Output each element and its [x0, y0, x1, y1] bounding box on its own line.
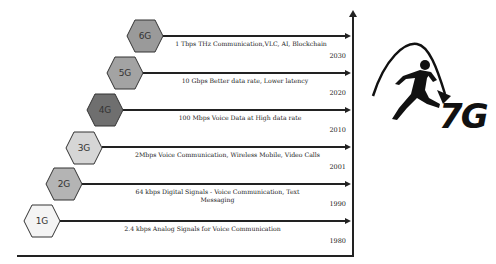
generation-description: 100 Mbps Voice Data at High data rate [140, 114, 340, 122]
arrow-right-icon [345, 218, 351, 224]
generation-description: 2Mbps Voice Communication, Wireless Mobi… [110, 151, 345, 159]
arrow-right-icon [345, 33, 351, 39]
generation-label: 6G [126, 19, 164, 53]
generation-label: 2G [45, 167, 83, 201]
timeline-base-line [17, 255, 354, 257]
arrow-right-icon [345, 181, 351, 187]
generation-description: 10 Gbps Better data rate, Lower latency [150, 77, 340, 85]
timeline-line [123, 109, 347, 111]
arrow-right-icon [345, 144, 351, 150]
generation-year: 2020 [316, 89, 346, 97]
generation-label: 4G [86, 93, 124, 127]
description-line-1: 64 kbps Digital Signals - Voice Communic… [110, 188, 325, 196]
timeline-line [60, 220, 347, 222]
description-line-2: Messaging [110, 196, 325, 204]
hexagon-1g: 1G [23, 204, 61, 238]
generation-label: 1G [23, 204, 61, 238]
hexagon-5g: 5G [106, 56, 144, 90]
hexagon-4g: 4G [86, 93, 124, 127]
generation-description: 64 kbps Digital Signals - Voice Communic… [110, 188, 325, 204]
hexagon-6g: 6G [126, 19, 164, 53]
generations-timeline-diagram: 6G 1 Tbps THz Communication,VLC, AI, Blo… [0, 0, 496, 264]
7g-logo: 7G [365, 38, 495, 148]
generation-year: 1990 [316, 200, 346, 208]
timeline-line [163, 35, 347, 37]
generation-year: 1980 [316, 237, 346, 245]
arrow-right-icon [345, 107, 351, 113]
generation-year: 2001 [316, 163, 346, 171]
hexagon-3g: 3G [65, 131, 103, 165]
timeline-line [143, 72, 347, 74]
timeline-vertical-axis [352, 16, 354, 256]
generation-description: 2.4 kbps Analog Signals for Voice Commun… [100, 225, 305, 233]
timeline-line [82, 183, 347, 185]
arrow-right-icon [345, 70, 351, 76]
generation-year: 2030 [316, 52, 346, 60]
generation-description: 1 Tbps THz Communication,VLC, AI, Blockc… [166, 40, 336, 48]
7g-logo-text: 7G [439, 98, 487, 134]
generation-label: 5G [106, 56, 144, 90]
generation-year: 2010 [316, 126, 346, 134]
hexagon-2g: 2G [45, 167, 83, 201]
generation-label: 3G [65, 131, 103, 165]
timeline-line [102, 146, 347, 148]
